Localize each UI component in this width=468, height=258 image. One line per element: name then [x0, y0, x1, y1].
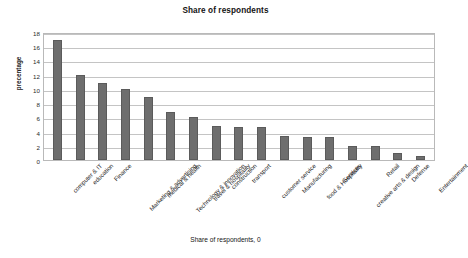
- bar[interactable]: [280, 136, 289, 160]
- y-tick-label: 14: [22, 58, 40, 65]
- bar-slot: [387, 34, 410, 160]
- y-tick-label: 10: [22, 86, 40, 93]
- bar[interactable]: [144, 97, 153, 160]
- bar-slot: [205, 34, 228, 160]
- y-tick-label: 6: [22, 115, 40, 122]
- bar[interactable]: [348, 146, 357, 160]
- bar[interactable]: [53, 40, 62, 160]
- bar-slot: [46, 34, 69, 160]
- y-tick-label: 18: [22, 30, 40, 37]
- bar[interactable]: [212, 126, 221, 160]
- y-tick-label: 2: [22, 143, 40, 150]
- bar-slot: [364, 34, 387, 160]
- plot-area: [43, 33, 435, 161]
- y-tick-label: 16: [22, 44, 40, 51]
- bar[interactable]: [166, 112, 175, 160]
- bar[interactable]: [121, 89, 130, 160]
- chart-title: Share of respondents: [0, 6, 451, 15]
- y-axis-tick-labels: 181614121086420: [22, 33, 40, 161]
- bar-slot: [318, 34, 341, 160]
- bar[interactable]: [98, 83, 107, 160]
- bar[interactable]: [234, 127, 243, 160]
- bar[interactable]: [371, 146, 380, 160]
- bar[interactable]: [303, 137, 312, 160]
- bar[interactable]: [76, 75, 85, 160]
- bar-slot: [273, 34, 296, 160]
- bar-slot: [137, 34, 160, 160]
- y-tick-label: 0: [22, 158, 40, 165]
- y-tick-label: 8: [22, 101, 40, 108]
- bar-slot: [228, 34, 251, 160]
- bar[interactable]: [189, 117, 198, 160]
- bar-slot: [250, 34, 273, 160]
- bar-slot: [409, 34, 432, 160]
- bar-slot: [182, 34, 205, 160]
- bar-slot: [341, 34, 364, 160]
- x-tick-label: Services: [341, 162, 362, 183]
- bar-slot: [114, 34, 137, 160]
- x-tick-label: Retail: [385, 162, 401, 178]
- bar-slot: [160, 34, 183, 160]
- bar[interactable]: [393, 153, 402, 160]
- bars-group: [44, 34, 434, 160]
- bar-slot: [296, 34, 319, 160]
- y-axis-title: precentage: [15, 44, 22, 104]
- x-axis-title: Share of respondents, 0: [0, 236, 451, 243]
- bar[interactable]: [416, 156, 425, 160]
- x-tick-label: Finance: [112, 162, 132, 182]
- bar[interactable]: [257, 127, 266, 160]
- x-tick-label: Entertainment: [437, 162, 468, 194]
- bar-slot: [69, 34, 92, 160]
- x-tick-label: medical & health: [165, 162, 202, 199]
- y-tick-label: 4: [22, 129, 40, 136]
- bar-slot: [91, 34, 114, 160]
- bar[interactable]: [325, 137, 334, 160]
- y-tick-label: 12: [22, 72, 40, 79]
- x-axis-tick-labels: computer & ITeducationFinanceMarketing &…: [43, 162, 435, 232]
